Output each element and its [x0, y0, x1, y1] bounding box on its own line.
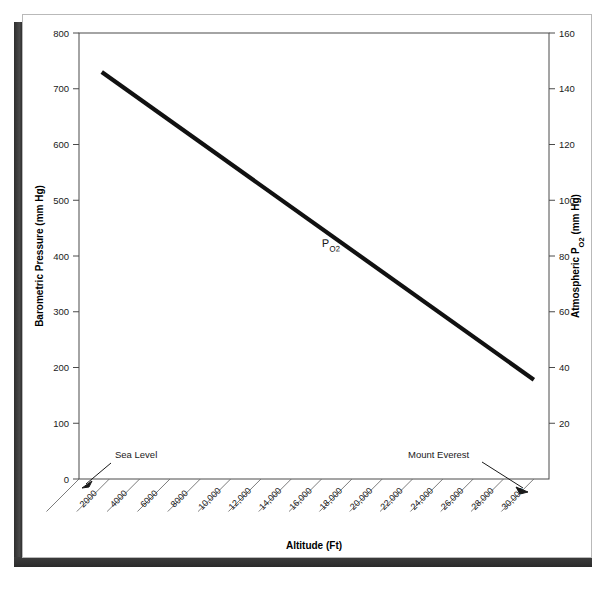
chart-card: 8007006005004003002001000 Barometric Pre…	[22, 14, 592, 558]
figure-root: 8007006005004003002001000 Barometric Pre…	[0, 0, 612, 592]
y2-tick-label: 140	[559, 83, 575, 94]
y-axis-right-title-main: Atmospheric P	[570, 247, 581, 318]
annotation-sea-level: Sea Level	[82, 449, 157, 488]
sea-level-arrow-head	[82, 481, 92, 488]
y-tick-label: 700	[53, 83, 69, 94]
x-axis: 200040006000800010,00012,00014,00016,000…	[46, 479, 533, 551]
y-tick-label: 200	[53, 362, 69, 373]
y-axis-right: 16014012010080604020 Atmospheric PO2 (mm…	[549, 28, 586, 429]
data-series-po2: PO2	[102, 72, 534, 380]
y-axis-left-title: Barometric Pressure (mm Hg)	[34, 185, 45, 327]
y-axis-right-title: Atmospheric PO2 (mm Hg)	[570, 194, 586, 318]
x-tick-label: 14,000	[257, 485, 284, 512]
mount-everest-arrow-shaft	[482, 462, 523, 488]
po2-label-sub2: 2	[335, 244, 340, 253]
x-tick-label: 18,000	[318, 485, 345, 512]
y2-tick-label: 80	[559, 251, 570, 262]
sea-level-label: Sea Level	[115, 449, 157, 460]
x-tick-label: 2000	[78, 488, 99, 509]
y-axis-right-title-tail: (mm Hg)	[570, 194, 581, 237]
y-tick-label: 300	[53, 306, 69, 317]
mount-everest-label: Mount Everest	[408, 449, 470, 460]
x-axis-title: Altitude (Ft)	[286, 540, 342, 551]
x-tick-label: 6000	[138, 488, 159, 509]
chart-plot: 8007006005004003002001000 Barometric Pre…	[23, 15, 593, 559]
x-tick-label: 24,000	[409, 485, 436, 512]
x-tick-label: 12,000	[227, 485, 254, 512]
y2-tick-label: 60	[559, 306, 570, 317]
y-axis-left: 8007006005004003002001000 Barometric Pre…	[34, 28, 79, 485]
x-tick-label: 4000	[108, 488, 129, 509]
x-tick-label: 28,000	[469, 485, 496, 512]
y2-tick-label: 160	[559, 28, 575, 39]
y-tick-label: 400	[53, 251, 69, 262]
y-tick-label: 800	[53, 28, 69, 39]
plot-frame	[79, 33, 549, 479]
y2-tick-label: 40	[559, 362, 570, 373]
x-tick-label: 22,000	[378, 485, 405, 512]
po2-label-main: P	[322, 237, 330, 249]
x-tick-label: 10,000	[196, 485, 223, 512]
x-tick-label: 26,000	[439, 485, 466, 512]
x-tick-label: 16,000	[287, 485, 314, 512]
y-tick-label: 500	[53, 195, 69, 206]
x-tick-label: 20,000	[348, 485, 375, 512]
x-tick-label: 8000	[169, 488, 190, 509]
y-tick-label: 100	[53, 418, 69, 429]
po2-line	[102, 72, 534, 380]
y-tick-label: 600	[53, 139, 69, 150]
y2-tick-label: 20	[559, 418, 570, 429]
y-tick-label: 0	[64, 474, 69, 485]
y2-tick-label: 120	[559, 139, 575, 150]
